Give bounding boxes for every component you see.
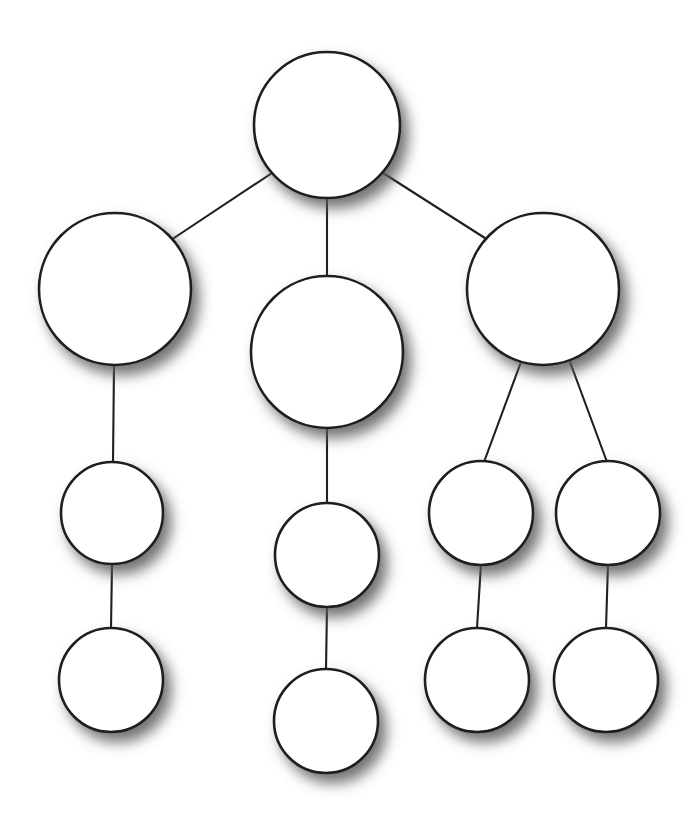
tree-edge [326, 607, 327, 669]
tree-diagram-svg [0, 0, 700, 823]
tree-node[interactable] [429, 461, 533, 565]
node-circle[interactable] [467, 213, 619, 365]
tree-node[interactable] [59, 628, 163, 732]
tree-node[interactable] [61, 462, 163, 564]
node-circle[interactable] [556, 461, 660, 565]
node-circle[interactable] [59, 628, 163, 732]
node-circle[interactable] [425, 628, 529, 732]
node-circle[interactable] [39, 213, 191, 365]
tree-node[interactable] [254, 52, 400, 198]
node-circle[interactable] [61, 462, 163, 564]
tree-node[interactable] [274, 669, 378, 773]
node-circle[interactable] [275, 503, 379, 607]
node-circle[interactable] [429, 461, 533, 565]
tree-node[interactable] [251, 276, 403, 428]
node-circle[interactable] [254, 52, 400, 198]
tree-node[interactable] [275, 503, 379, 607]
tree-node[interactable] [556, 461, 660, 565]
tree-node[interactable] [425, 628, 529, 732]
tree-edge [111, 564, 112, 628]
node-circle[interactable] [554, 628, 658, 732]
tree-edge [113, 365, 114, 462]
tree-node[interactable] [39, 213, 191, 365]
node-circle[interactable] [251, 276, 403, 428]
node-circle[interactable] [274, 669, 378, 773]
tree-diagram-canvas [0, 0, 700, 823]
tree-node[interactable] [554, 628, 658, 732]
tree-node[interactable] [467, 213, 619, 365]
